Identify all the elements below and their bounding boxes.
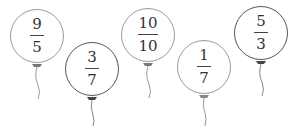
fraction-bar (254, 32, 268, 33)
denominator: 7 (174, 71, 234, 86)
fraction-bar (197, 66, 211, 67)
balloon-scene: 9 5 3 7 10 10 (0, 0, 288, 128)
balloon-3-7: 3 7 (62, 42, 122, 128)
fraction-bar (85, 68, 99, 69)
numerator: 3 (62, 50, 122, 65)
balloon-10-10: 10 10 (118, 8, 178, 108)
numerator: 5 (231, 14, 288, 29)
fraction-bar (138, 34, 158, 35)
numerator: 10 (118, 16, 178, 31)
denominator: 5 (7, 40, 67, 55)
denominator: 10 (118, 39, 178, 54)
numerator: 9 (7, 17, 67, 32)
numerator: 1 (174, 48, 234, 63)
denominator: 3 (231, 37, 288, 52)
balloon-1-7: 1 7 (174, 40, 234, 128)
fraction-bar (30, 35, 44, 36)
balloon-5-3: 5 3 (231, 6, 288, 106)
balloon-9-5: 9 5 (7, 9, 67, 109)
denominator: 7 (62, 73, 122, 88)
